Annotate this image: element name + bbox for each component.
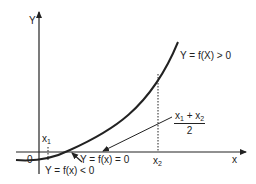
x-axis-label: x <box>232 155 237 165</box>
positive-annotation: Y = f(X) > 0 <box>180 51 231 61</box>
zero-annotation: Y = f(x) = 0 <box>80 155 129 165</box>
origin-label: 0 <box>27 155 33 165</box>
y-axis-label: Y <box>29 16 36 26</box>
negative-annotation: Y = f(x) < 0 <box>45 166 94 176</box>
x2-label: x2 <box>153 156 162 167</box>
midpoint-pointer <box>103 117 172 151</box>
function-curve <box>16 42 178 160</box>
x1-label: x1 <box>42 134 51 145</box>
midpoint-fraction: x1 + x2 2 <box>174 111 205 136</box>
